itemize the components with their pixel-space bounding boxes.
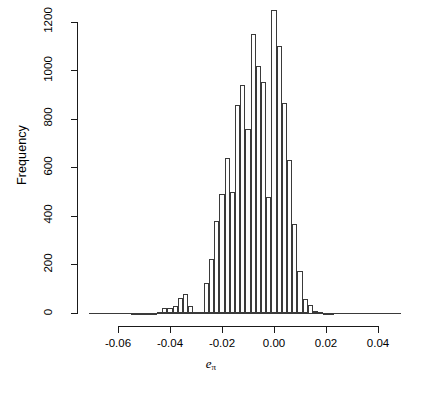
x-axis-tick (378, 326, 379, 333)
y-axis-tick (71, 22, 78, 23)
x-axis-tick-label: 0.04 (367, 337, 389, 349)
y-axis-tick-label: 1200 (42, 0, 54, 40)
x-axis-tick-label: 0.00 (263, 337, 285, 349)
x-axis-tick-label: -0.04 (157, 337, 183, 349)
x-axis-tick (170, 326, 171, 333)
y-axis-tick-label: 1000 (42, 49, 54, 89)
x-axis-tick (118, 326, 119, 333)
y-axis-tick-label: 600 (42, 146, 54, 186)
y-axis-tick (71, 313, 78, 314)
y-axis-tick (71, 167, 78, 168)
x-axis-line (118, 326, 378, 327)
y-axis-tick-label: 200 (42, 243, 54, 283)
y-axis-tick (71, 264, 78, 265)
y-axis-tick-label: 400 (42, 194, 54, 234)
y-axis-tick-label: 0 (42, 292, 54, 332)
x-axis-tick (326, 326, 327, 333)
y-axis-tick-label: 800 (42, 97, 54, 137)
x-axis-tick (222, 326, 223, 333)
x-axis-tick (274, 326, 275, 333)
x-axis-tick-label: 0.02 (315, 337, 337, 349)
histogram-baseline (89, 313, 401, 314)
histogram-figure: Frequency eπ 020040060080010001200-0.06-… (0, 0, 422, 394)
y-axis-tick (71, 70, 78, 71)
plot-area: 020040060080010001200-0.06-0.04-0.020.00… (0, 0, 422, 394)
y-axis-tick (71, 119, 78, 120)
y-axis-tick (71, 216, 78, 217)
x-axis-tick-label: -0.06 (105, 337, 131, 349)
x-axis-tick-label: -0.02 (209, 337, 235, 349)
